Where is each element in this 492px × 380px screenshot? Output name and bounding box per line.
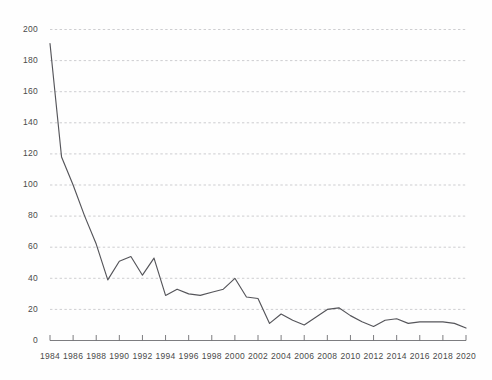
x-tick-label-1990: 1990: [109, 351, 129, 361]
x-tick-label-2012: 2012: [364, 351, 384, 361]
y-tick-label-140: 140: [23, 117, 38, 127]
x-tick-label-2018: 2018: [433, 351, 453, 361]
data-line-series-1: [50, 44, 466, 329]
x-tick-label-2020: 2020: [456, 351, 476, 361]
x-tick-label-2014: 2014: [387, 351, 407, 361]
y-tick-label-40: 40: [28, 273, 38, 283]
x-axis-tick-labels: 1984198619881990199219941996199820002002…: [40, 351, 476, 361]
gridlines-group: [50, 30, 466, 310]
x-tick-label-1986: 1986: [63, 351, 83, 361]
x-tick-label-1992: 1992: [132, 351, 152, 361]
data-series-group: [50, 44, 466, 329]
x-tick-label-2004: 2004: [271, 351, 291, 361]
x-tick-label-2002: 2002: [248, 351, 268, 361]
x-axis-tick-marks: [50, 335, 466, 341]
y-tick-label-200: 200: [23, 24, 38, 34]
y-tick-label-80: 80: [28, 210, 38, 220]
y-tick-label-120: 120: [23, 148, 38, 158]
x-tick-label-2000: 2000: [225, 351, 245, 361]
x-tick-label-1984: 1984: [40, 351, 60, 361]
line-chart-svg: 020406080100120140160180200 198419861988…: [0, 0, 492, 380]
y-tick-label-180: 180: [23, 55, 38, 65]
x-tick-label-1988: 1988: [86, 351, 106, 361]
x-tick-label-2008: 2008: [317, 351, 337, 361]
y-axis-tick-labels: 020406080100120140160180200: [23, 24, 38, 345]
x-tick-label-1998: 1998: [202, 351, 222, 361]
y-tick-label-100: 100: [23, 179, 38, 189]
x-tick-label-1994: 1994: [156, 351, 176, 361]
y-tick-label-20: 20: [28, 304, 38, 314]
y-tick-label-60: 60: [28, 241, 38, 251]
y-tick-label-0: 0: [33, 335, 38, 345]
y-tick-label-160: 160: [23, 86, 38, 96]
line-chart-container: 020406080100120140160180200 198419861988…: [0, 0, 492, 380]
x-tick-label-2016: 2016: [410, 351, 430, 361]
x-tick-label-1996: 1996: [179, 351, 199, 361]
x-tick-label-2006: 2006: [294, 351, 314, 361]
x-tick-label-2010: 2010: [340, 351, 360, 361]
